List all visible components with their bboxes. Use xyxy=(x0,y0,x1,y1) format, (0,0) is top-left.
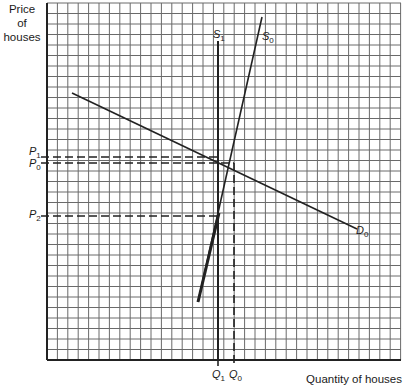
p0-label: P0 xyxy=(29,157,41,172)
p2-label: P2 xyxy=(29,208,41,223)
y-axis-label: Price of houses xyxy=(0,2,44,44)
s1-label: S1 xyxy=(213,28,225,43)
s0-label: S0 xyxy=(262,30,274,45)
supply-demand-diagram xyxy=(0,0,406,387)
x-axis-label: Quantity of houses xyxy=(306,373,402,385)
d0-label: D0 xyxy=(356,224,368,239)
supply-curve-s0-bold-segment xyxy=(198,213,219,302)
q1-label: Q1 xyxy=(212,368,225,383)
graph-paper-grid xyxy=(47,3,401,360)
q0-label: Q0 xyxy=(229,368,242,383)
y-label-line: of xyxy=(0,16,44,30)
y-label-line: Price xyxy=(0,2,44,16)
y-label-line: houses xyxy=(0,30,44,44)
